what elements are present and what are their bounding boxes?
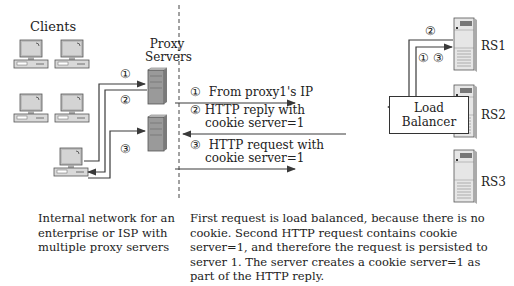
rs3-label: RS3 — [481, 176, 506, 189]
client-computer-icon — [14, 40, 48, 68]
message-3: ③ HTTP request with cookie server=1 — [190, 139, 324, 165]
load-balancer-box: Load Balancer — [389, 96, 469, 134]
proxy-servers-label: Proxy Servers — [145, 38, 189, 64]
step-2-badge-rs: ② — [425, 24, 436, 38]
step-2-badge: ② — [120, 93, 131, 107]
real-server-icon — [454, 150, 477, 204]
step-1-badge: ① — [120, 67, 131, 81]
caption-left: Internal network for an enterprise or IS… — [38, 211, 175, 255]
client-computer-icon — [55, 40, 89, 68]
client-computer-icon — [54, 148, 88, 176]
clients-label: Clients — [30, 20, 76, 33]
proxy-server-icon — [148, 115, 167, 151]
rs1-label: RS1 — [481, 40, 506, 53]
client-computer-icon — [14, 94, 48, 122]
real-server-icon — [454, 18, 477, 72]
message-2: ② HTTP reply with cookie server=1 — [190, 104, 305, 130]
message-1: ① From proxy1's IP — [190, 86, 313, 99]
step-3-badge: ③ — [120, 142, 131, 156]
step-1-3-badge-rs: ① ③ — [418, 51, 444, 65]
client-computer-icon — [55, 94, 89, 122]
caption-right: First request is load balanced, because … — [190, 211, 488, 284]
proxy-server-icon — [148, 68, 167, 104]
rs2-label: RS2 — [481, 109, 506, 122]
